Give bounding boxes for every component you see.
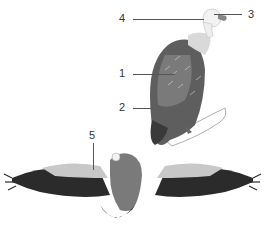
perched-vulture bbox=[150, 9, 227, 146]
leader-line-2 bbox=[133, 108, 153, 109]
leader-line-1 bbox=[133, 74, 175, 75]
leader-line-4 bbox=[133, 19, 204, 20]
leader-line-5 bbox=[93, 143, 94, 170]
label-4: 4 bbox=[119, 13, 125, 24]
label-1: 1 bbox=[119, 68, 125, 79]
label-3: 3 bbox=[248, 9, 254, 20]
flying-vulture bbox=[4, 153, 261, 218]
label-5: 5 bbox=[89, 130, 95, 141]
vulture-diagram: 4 3 1 2 5 bbox=[0, 0, 265, 230]
vulture-illustration bbox=[0, 0, 265, 230]
label-2: 2 bbox=[119, 102, 125, 113]
leader-line-3 bbox=[214, 14, 242, 15]
